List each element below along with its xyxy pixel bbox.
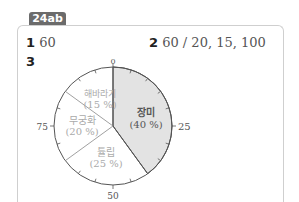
pct-tulip: (25 %) bbox=[89, 158, 122, 169]
tick-0: 0 bbox=[110, 57, 115, 66]
label-rosesharon: 무궁화 bbox=[69, 115, 96, 126]
label-rose: 장미 bbox=[137, 106, 155, 118]
tick-25: 25 bbox=[178, 121, 191, 132]
tick-75: 75 bbox=[37, 122, 49, 132]
pct-rosesharon: (20 %) bbox=[65, 126, 98, 137]
label-tulip: 튤립 bbox=[97, 146, 115, 158]
pie-chart: 0 25 50 75 장미 (40 %) 해바라기 (15 %) 무궁화 (20… bbox=[0, 0, 299, 202]
label-sunflower: 해바라기 bbox=[84, 89, 116, 99]
tick-50: 50 bbox=[107, 191, 119, 201]
pct-rose: (40 %) bbox=[129, 119, 162, 130]
pct-sunflower: (15 %) bbox=[83, 99, 116, 110]
